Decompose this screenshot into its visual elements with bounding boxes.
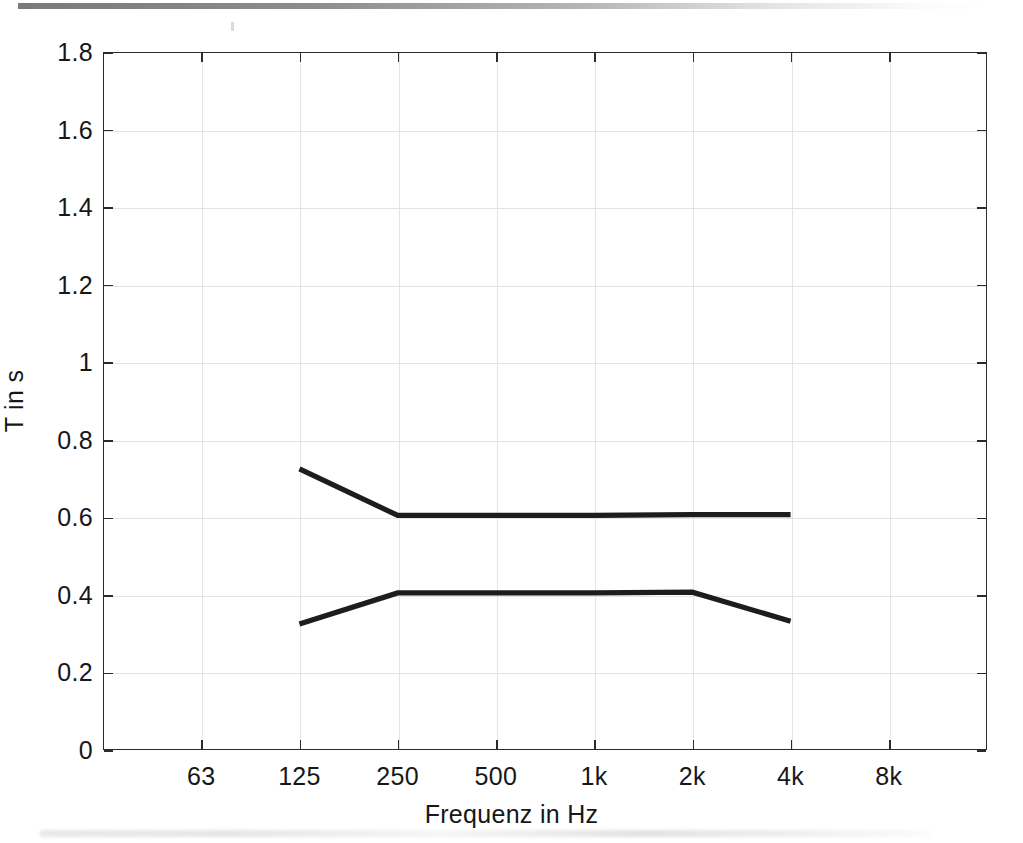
tick-mark-x xyxy=(300,740,302,749)
tick-mark-x-top xyxy=(594,53,596,62)
gridline-horizontal xyxy=(104,131,986,132)
gridline-horizontal xyxy=(104,673,986,674)
gridline-vertical xyxy=(890,53,891,749)
gridline-vertical xyxy=(399,53,400,749)
chart-canvas: 00.20.40.60.811.21.41.61.8 631252505001k… xyxy=(0,0,1023,843)
tick-mark-y xyxy=(104,285,113,287)
tick-mark-y xyxy=(104,595,113,597)
tick-mark-y xyxy=(104,440,113,442)
tick-mark-x xyxy=(594,740,596,749)
tick-mark-y xyxy=(104,518,113,520)
y-tick-label: 0 xyxy=(7,736,93,765)
x-tick-label: 500 xyxy=(475,762,518,791)
tick-mark-y xyxy=(104,750,113,752)
y-tick-label: 1.2 xyxy=(7,270,93,299)
x-tick-label: 125 xyxy=(278,762,321,791)
tick-mark-x xyxy=(889,740,891,749)
gridline-vertical xyxy=(202,53,203,749)
x-tick-label: 2k xyxy=(679,762,706,791)
gridline-horizontal xyxy=(104,208,986,209)
y-axis-title: T in s xyxy=(0,370,29,432)
tick-mark-y-right xyxy=(977,595,986,597)
tick-mark-y xyxy=(104,673,113,675)
y-tick-label: 1.4 xyxy=(7,193,93,222)
tick-mark-y-right xyxy=(977,52,986,54)
tick-mark-x xyxy=(496,740,498,749)
x-tick-label: 1k xyxy=(581,762,608,791)
tick-mark-x xyxy=(693,740,695,749)
gridline-vertical xyxy=(595,53,596,749)
gridline-vertical xyxy=(693,53,694,749)
gridline-vertical xyxy=(792,53,793,749)
gridline-vertical xyxy=(497,53,498,749)
plot-frame xyxy=(103,52,987,750)
x-tick-label: 250 xyxy=(376,762,419,791)
tick-mark-x xyxy=(791,740,793,749)
gridline-horizontal xyxy=(104,441,986,442)
tick-mark-y-right xyxy=(977,362,986,364)
gridline-horizontal xyxy=(104,363,986,364)
tick-mark-x-top xyxy=(791,53,793,62)
tick-mark-x-top xyxy=(693,53,695,62)
tick-mark-y-right xyxy=(977,285,986,287)
tick-mark-y xyxy=(104,52,113,54)
tick-mark-x-top xyxy=(398,53,400,62)
tick-mark-y-right xyxy=(977,750,986,752)
y-tick-label: 0.4 xyxy=(7,580,93,609)
tick-mark-x xyxy=(201,740,203,749)
tick-mark-x-top xyxy=(300,53,302,62)
tick-mark-x-top xyxy=(496,53,498,62)
x-tick-label: 4k xyxy=(777,762,804,791)
y-tick-label: 1.8 xyxy=(7,38,93,67)
tick-mark-y xyxy=(104,130,113,132)
gridline-horizontal xyxy=(104,286,986,287)
tick-mark-y-right xyxy=(977,673,986,675)
y-tick-label: 0.2 xyxy=(7,658,93,687)
tick-mark-y-right xyxy=(977,518,986,520)
tick-mark-y-right xyxy=(977,207,986,209)
tick-mark-y-right xyxy=(977,130,986,132)
tick-mark-y-right xyxy=(977,440,986,442)
y-tick-label: 0.6 xyxy=(7,503,93,532)
tick-mark-x-top xyxy=(201,53,203,62)
gridline-vertical xyxy=(300,53,301,749)
tick-mark-y xyxy=(104,362,113,364)
tick-mark-x xyxy=(398,740,400,749)
y-tick-label: 1.6 xyxy=(7,115,93,144)
x-tick-label: 8k xyxy=(875,762,902,791)
x-tick-label: 63 xyxy=(187,762,215,791)
tick-mark-y xyxy=(104,207,113,209)
x-axis-title: Frequenz in Hz xyxy=(0,800,1023,829)
gridline-horizontal xyxy=(104,596,986,597)
gridline-horizontal xyxy=(104,518,986,519)
tick-mark-x-top xyxy=(889,53,891,62)
